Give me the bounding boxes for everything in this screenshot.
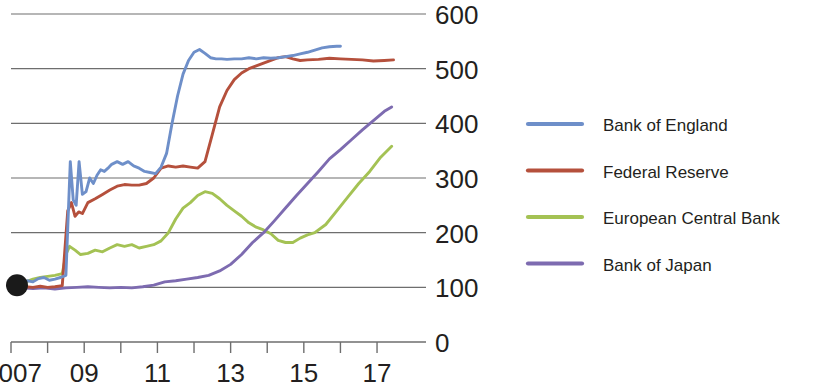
legend-label-european-central-bank: European Central Bank	[603, 209, 780, 228]
x-tick-label-13: 13	[216, 358, 245, 387]
index-start-dot	[6, 274, 28, 296]
y-axis-labels: 0100200300400500600	[435, 0, 478, 358]
legend: Bank of EnglandFederal ReserveEuropean C…	[528, 116, 780, 275]
legend-item-european-central-bank[interactable]: European Central Bank	[528, 209, 780, 228]
y-tick-label-600: 600	[435, 0, 478, 30]
legend-item-bank-of-england[interactable]: Bank of England	[528, 116, 728, 135]
x-tick-label-15: 15	[289, 358, 318, 387]
x-tick-label-11: 11	[144, 358, 171, 387]
x-tick-label-17: 17	[363, 358, 392, 387]
series-group	[11, 46, 394, 289]
legend-item-bank-of-japan[interactable]: Bank of Japan	[528, 256, 712, 275]
x-tick-label-2007: 2007	[0, 358, 42, 387]
legend-label-federal-reserve: Federal Reserve	[603, 163, 729, 182]
central-bank-balance-sheet-line-chart: 200709111315170100200300400500600Bank of…	[0, 0, 827, 387]
y-tick-label-200: 200	[435, 219, 478, 249]
chart-figure: 200709111315170100200300400500600Bank of…	[0, 0, 827, 387]
legend-label-bank-of-england: Bank of England	[603, 116, 728, 135]
y-tick-label-400: 400	[435, 109, 478, 139]
y-tick-label-0: 0	[435, 328, 449, 358]
legend-label-bank-of-japan: Bank of Japan	[603, 256, 712, 275]
legend-item-federal-reserve[interactable]: Federal Reserve	[528, 163, 729, 182]
x-axis: 20070911131517	[0, 342, 426, 387]
y-tick-label-500: 500	[435, 55, 478, 85]
x-tick-label-09: 09	[70, 358, 99, 387]
gridlines	[11, 14, 426, 287]
y-tick-label-100: 100	[435, 273, 478, 303]
series-line-federal-reserve	[11, 57, 394, 288]
y-tick-label-300: 300	[435, 164, 478, 194]
